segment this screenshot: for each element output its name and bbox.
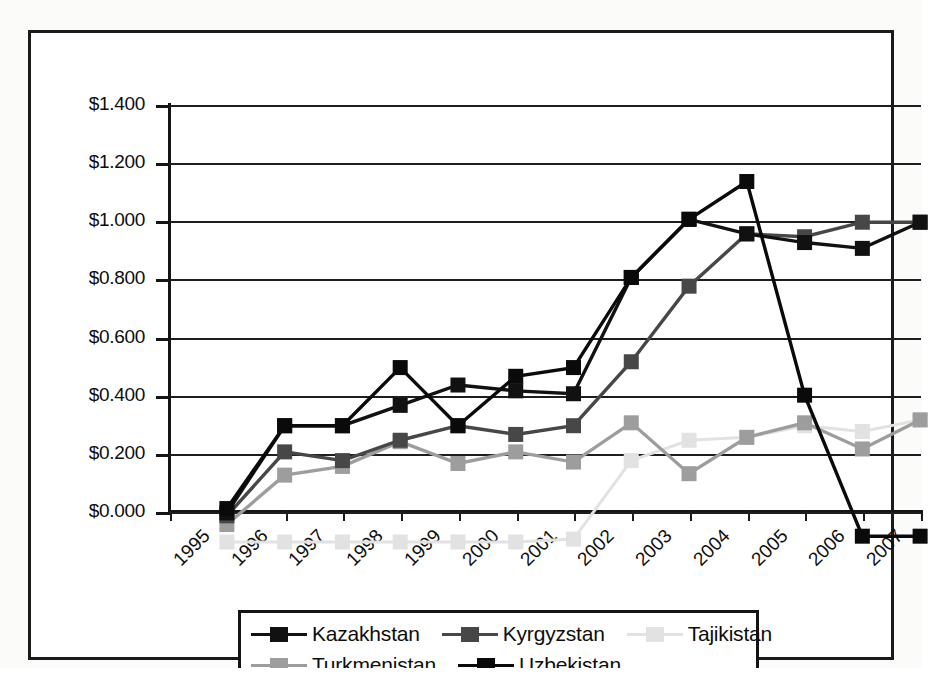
chart-outer-frame: $0.000$0.200$0.400$0.600$0.800$1.000$1.2… (28, 30, 894, 660)
legend-label: Tajikistan (688, 622, 772, 646)
legend-label: Kyrgyzstan (503, 622, 605, 646)
x-axis-tick-label: 2002 (565, 525, 619, 579)
y-axis-tick (156, 279, 170, 282)
data-point-marker (450, 535, 465, 550)
plot-area (170, 105, 921, 512)
y-axis-tick (156, 105, 170, 108)
x-axis-tick-label: 1999 (392, 525, 446, 579)
y-axis-tick (156, 338, 170, 341)
x-axis-tick-label: 2006 (796, 525, 850, 579)
x-axis-tick-label: 2001 (507, 525, 561, 579)
gridline (170, 338, 921, 340)
x-axis-tick-label: 2007 (854, 525, 908, 579)
x-axis-tick-label: 2005 (738, 525, 792, 579)
legend-marker-icon (270, 627, 288, 642)
y-axis-tick-label: $0.000 (53, 500, 145, 522)
data-point-marker (913, 529, 928, 544)
legend-marker-icon (461, 627, 479, 642)
data-point-marker (508, 535, 523, 550)
data-point-marker (335, 535, 350, 550)
y-axis-tick-label: $0.800 (53, 267, 145, 289)
legend-item-tajikistan[interactable]: Tajikistan (627, 622, 772, 646)
y-axis-tick-label: $0.200 (53, 442, 145, 464)
data-point-marker (219, 535, 234, 550)
legend-marker-icon (646, 627, 664, 642)
gridline (170, 396, 921, 398)
legend-item-kazakhstan[interactable]: Kazakhstan (251, 622, 420, 646)
gridline (170, 279, 921, 281)
gridline (170, 512, 921, 514)
legend-item-kyrgyzstan[interactable]: Kyrgyzstan (442, 622, 605, 646)
y-axis-tick-label: $1.000 (53, 209, 145, 231)
y-axis-tick-label: $0.600 (53, 326, 145, 348)
y-axis-tick (156, 396, 170, 399)
x-axis-tick (921, 510, 923, 521)
x-axis-tick-label: 2003 (623, 525, 677, 579)
x-axis-tick-label: 2004 (681, 525, 735, 579)
gridline (170, 221, 921, 223)
y-axis-tick-label: $0.400 (53, 384, 145, 406)
scan-edge-noise (0, 668, 922, 695)
legend-swatch-icon (251, 624, 307, 644)
x-axis-tick-label: 1998 (334, 525, 388, 579)
gridline (170, 163, 921, 165)
legend-swatch-icon (627, 624, 683, 644)
data-point-marker (566, 532, 581, 547)
gridline (170, 105, 921, 107)
legend-label: Kazakhstan (312, 622, 420, 646)
data-point-marker (393, 535, 408, 550)
x-axis-tick-label: 1997 (276, 525, 330, 579)
x-axis-tick-label: 2000 (450, 525, 504, 579)
y-axis-tick (156, 163, 170, 166)
gridline (170, 454, 921, 456)
y-axis-tick-label: $1.400 (53, 93, 145, 115)
x-axis-tick-label: 1996 (218, 525, 272, 579)
y-axis-tick-label: $1.200 (53, 151, 145, 173)
y-axis-tick (156, 221, 170, 224)
legend-swatch-icon (442, 624, 498, 644)
data-point-marker (855, 529, 870, 544)
x-axis-tick-label: 1995 (161, 525, 215, 579)
y-axis-tick (156, 454, 170, 457)
y-axis-tick (156, 512, 170, 515)
legend-row: KazakhstanKyrgyzstanTajikistan (251, 618, 746, 649)
